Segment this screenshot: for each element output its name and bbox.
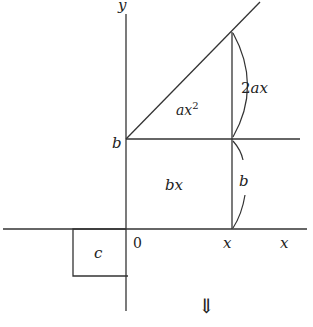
x-axis-label: x xyxy=(280,234,289,252)
down-arrow: ⇓ xyxy=(198,294,215,318)
rectangle-label: bx xyxy=(165,176,184,194)
square-label: c xyxy=(94,244,103,262)
x-tick-label: x xyxy=(223,234,232,252)
area-diagram: y b ax2 2ax bx b 0 x x c ⇓ xyxy=(0,0,313,327)
brace-lower-top xyxy=(233,141,243,160)
brace-lower-bottom xyxy=(233,195,245,228)
origin-label: 0 xyxy=(133,235,142,251)
y-axis-label: y xyxy=(117,0,127,14)
diagonal-line xyxy=(126,2,260,139)
upper-brace-label: 2ax xyxy=(241,79,268,97)
b-label: b xyxy=(112,134,122,152)
triangle-label: ax2 xyxy=(176,100,199,118)
lower-brace-label: b xyxy=(239,172,249,190)
